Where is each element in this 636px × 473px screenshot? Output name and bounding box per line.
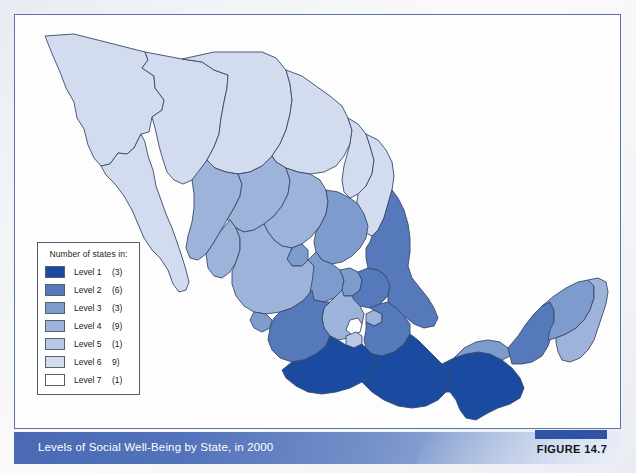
legend-row-level-4: Level 4(9) bbox=[38, 317, 139, 335]
legend-swatch-level-7 bbox=[45, 374, 65, 386]
legend-row-level-2: Level 2(6) bbox=[38, 281, 139, 299]
legend-count-level-4: (9) bbox=[112, 321, 122, 331]
legend-label-level-4: Level 4 bbox=[74, 321, 107, 331]
legend-label-level-5: Level 5 bbox=[74, 339, 107, 349]
figure-number-tab bbox=[535, 430, 607, 439]
figure-number-label: FIGURE 14.7 bbox=[534, 443, 610, 455]
legend-row-level-6: Level 69) bbox=[38, 353, 139, 371]
legend-title: Number of states in: bbox=[38, 249, 139, 259]
legend-count-level-3: (3) bbox=[112, 303, 122, 313]
map-legend: Number of states in: Level 1(3)Level 2(6… bbox=[37, 242, 140, 395]
legend-count-level-6: 9) bbox=[112, 357, 120, 367]
legend-row-level-3: Level 3(3) bbox=[38, 299, 139, 317]
legend-rows: Level 1(3)Level 2(6)Level 3(3)Level 4(9)… bbox=[38, 263, 139, 389]
state-colima bbox=[250, 312, 272, 332]
legend-label-level-2: Level 2 bbox=[74, 285, 107, 295]
legend-count-level-1: (3) bbox=[112, 267, 122, 277]
legend-count-level-5: (1) bbox=[112, 339, 122, 349]
legend-label-level-7: Level 7 bbox=[74, 375, 107, 385]
legend-count-level-7: (1) bbox=[112, 375, 122, 385]
state-campeche bbox=[508, 302, 554, 364]
legend-swatch-level-1 bbox=[45, 266, 65, 278]
legend-swatch-level-2 bbox=[45, 284, 65, 296]
figure-caption-text: Levels of Social Well-Being by State, in… bbox=[38, 441, 273, 453]
legend-swatch-level-4 bbox=[45, 320, 65, 332]
legend-label-level-6: Level 6 bbox=[74, 357, 107, 367]
legend-label-level-1: Level 1 bbox=[74, 267, 107, 277]
legend-swatch-level-6 bbox=[45, 356, 65, 368]
legend-row-level-7: Level 7(1) bbox=[38, 371, 139, 389]
legend-row-level-1: Level 1(3) bbox=[38, 263, 139, 281]
legend-swatch-level-5 bbox=[45, 338, 65, 350]
figure-caption-bar: Levels of Social Well-Being by State, in… bbox=[14, 432, 621, 464]
legend-row-level-5: Level 5(1) bbox=[38, 335, 139, 353]
legend-swatch-level-3 bbox=[45, 302, 65, 314]
legend-label-level-3: Level 3 bbox=[74, 303, 107, 313]
legend-count-level-2: (6) bbox=[112, 285, 122, 295]
